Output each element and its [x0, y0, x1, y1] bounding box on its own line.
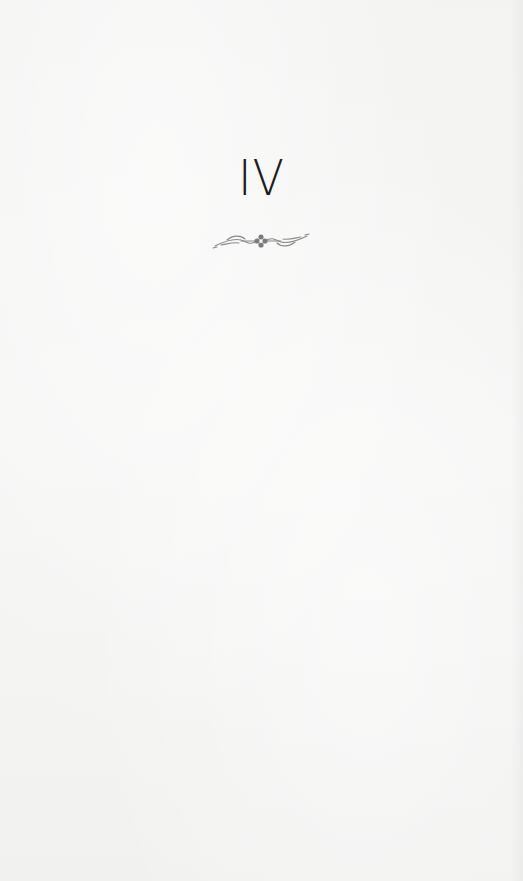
chapter-number: IV	[21, 150, 502, 206]
book-page: IV	[0, 0, 523, 881]
flourish-ornament-icon	[211, 229, 311, 253]
